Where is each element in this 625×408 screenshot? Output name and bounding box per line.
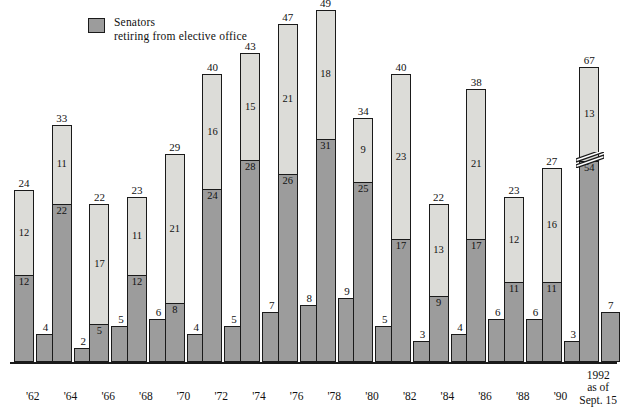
segment-value-label: 23 xyxy=(396,152,407,163)
side-bar-label: 3 xyxy=(570,328,576,340)
stacked-bar: 382117 xyxy=(466,89,486,363)
bar-group: 2312116 xyxy=(504,197,545,363)
bar-segment-light: 12 xyxy=(505,198,523,283)
segment-value-label: 28 xyxy=(245,162,256,173)
bar-segment-light: 17 xyxy=(90,205,108,325)
side-bar-label: 4 xyxy=(194,321,200,333)
stacked-bar: 231112 xyxy=(127,197,147,363)
bar-segment-light: 9 xyxy=(354,119,372,184)
stacked-bar: 34925 xyxy=(353,118,373,363)
segment-value-label: 17 xyxy=(471,241,482,252)
segment-value-label: 25 xyxy=(358,184,369,195)
bar-segment-dark: 31 xyxy=(317,140,335,362)
segment-value-label: 31 xyxy=(320,141,331,152)
x-axis-baseline xyxy=(10,362,617,364)
bar-segment-light: 13 xyxy=(580,68,598,161)
stacked-bar: 491831 xyxy=(316,10,336,363)
segment-value-label: 16 xyxy=(546,220,557,231)
bar-total-label: 29 xyxy=(169,141,180,153)
stacked-bar: 401624 xyxy=(202,74,222,362)
segment-value-label: 21 xyxy=(471,159,482,170)
side-bar-label: 5 xyxy=(231,313,237,325)
bar-segment-dark: 12 xyxy=(15,276,33,361)
bar-group: 221755 xyxy=(89,204,130,362)
bar-total-label: 67 xyxy=(584,54,595,66)
segment-value-label: 9 xyxy=(361,145,366,156)
side-bar-label: 8 xyxy=(307,292,313,304)
segment-value-label: 12 xyxy=(132,277,143,288)
segment-value-label: 12 xyxy=(19,277,30,288)
bar-total-label: 43 xyxy=(245,40,256,52)
segment-value-label: 9 xyxy=(436,298,441,309)
bar-segment-dark: 17 xyxy=(467,240,485,362)
side-bar-label: 9 xyxy=(344,285,350,297)
side-bar-label: 5 xyxy=(382,313,388,325)
senate-retirement-bar-chart: Senators retiring from elective office 2… xyxy=(0,0,625,408)
segment-value-label: 12 xyxy=(19,228,30,239)
bar-total-label: 22 xyxy=(94,191,105,203)
segment-value-label: 16 xyxy=(207,127,218,138)
segment-value-label: 17 xyxy=(94,259,105,270)
segment-value-label: 5 xyxy=(97,326,102,337)
side-bar-label: 6 xyxy=(156,306,162,318)
stacked-bar: 241212 xyxy=(14,190,34,363)
bar-segment-dark: 12 xyxy=(128,276,146,361)
segment-value-label: 21 xyxy=(283,94,294,105)
segment-value-label: 54 xyxy=(584,163,595,174)
bar-segment-light: 13 xyxy=(430,205,448,297)
segment-value-label: 24 xyxy=(207,191,218,202)
segment-value-label: 11 xyxy=(547,284,557,295)
bar-segment-light: 11 xyxy=(128,198,146,276)
bar-total-label: 23 xyxy=(132,184,143,196)
segment-value-label: 17 xyxy=(396,241,407,252)
bar-segment-dark: 17 xyxy=(392,240,410,362)
bar-total-label: 47 xyxy=(282,11,293,23)
stacked-bar: 22139 xyxy=(429,204,449,362)
segment-value-label: 11 xyxy=(57,159,67,170)
bar-total-label: 27 xyxy=(546,155,557,167)
bar-group: 4016245 xyxy=(202,74,243,362)
bar-segment-light: 12 xyxy=(15,191,33,276)
bar-segment-dark: 26 xyxy=(279,175,297,361)
segment-value-label: 26 xyxy=(283,176,294,187)
bar-group: 2311126 xyxy=(127,197,168,363)
bar-total-label: 49 xyxy=(320,0,331,9)
side-bar-label: 2 xyxy=(80,335,86,347)
side-bar-label: 3 xyxy=(420,328,426,340)
bar-group: 4315287 xyxy=(240,53,281,363)
stacked-bar: 29218 xyxy=(165,154,185,363)
segment-value-label: 11 xyxy=(509,284,519,295)
bar-segment-dark: 11 xyxy=(543,283,561,362)
segment-value-label: 15 xyxy=(245,102,256,113)
bar-total-label: 34 xyxy=(358,105,369,117)
plot-area: 2412124'623311222'64221755'662311126'682… xyxy=(0,0,625,408)
bar-segment-light: 21 xyxy=(166,155,184,304)
bar-segment-dark: 24 xyxy=(203,190,221,361)
stacked-bar: 431528 xyxy=(240,53,260,363)
stacked-bar: 472126 xyxy=(278,24,298,362)
bar-segment-light: 21 xyxy=(279,25,297,175)
bar-segment-dark: 11 xyxy=(505,283,523,361)
bar-segment-light: 11 xyxy=(53,126,71,205)
bar-segment-light: 16 xyxy=(543,169,561,283)
bar-segment-dark: 25 xyxy=(354,183,372,361)
bar-segment-light: 16 xyxy=(203,75,221,190)
bar-segment-dark: 9 xyxy=(430,297,448,361)
bar-total-label: 23 xyxy=(508,184,519,196)
bar-group: 221394 xyxy=(429,204,470,362)
bar-segment-light: 23 xyxy=(392,75,410,239)
stacked-bar: 271611 xyxy=(542,168,562,362)
stacked-bar: 671354 xyxy=(579,67,599,362)
side-bar-label: 4 xyxy=(457,321,463,333)
bar-group: 2412124 xyxy=(14,190,55,363)
bar-segment-light: 21 xyxy=(467,90,485,240)
bar-segment-dark: 28 xyxy=(241,161,259,361)
bar-segment-light: 18 xyxy=(317,11,335,140)
bar-group: 2716113 xyxy=(542,168,583,362)
side-bar-label: 4 xyxy=(43,321,49,333)
segment-value-label: 11 xyxy=(132,231,142,242)
bar-total-label: 40 xyxy=(395,61,406,73)
side-bar-label: 6 xyxy=(533,306,539,318)
side-bar-label: 7 xyxy=(608,299,614,311)
bar-total-label: 24 xyxy=(19,177,30,189)
